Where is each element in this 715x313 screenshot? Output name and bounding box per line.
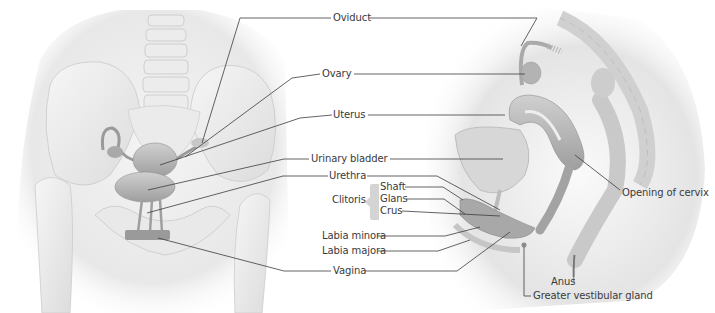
frontal-view (18, 10, 291, 313)
label-clitoris-glans: Glans (380, 193, 408, 205)
label-urethra: Urethra (329, 170, 366, 182)
label-oviduct: Oviduct (333, 12, 371, 24)
label-labia-majora: Labia majora (322, 245, 386, 257)
label-clitoris: Clitoris (332, 194, 366, 206)
clitoris-bracket (370, 184, 379, 220)
reproductive-anatomy-diagram: Oviduct Ovary Uterus Urinary bladder Ure… (0, 0, 715, 313)
label-clitoris-crus: Crus (380, 205, 402, 217)
sagittal-view (427, 7, 705, 313)
label-labia-minora: Labia minora (322, 230, 386, 242)
label-uterus: Uterus (333, 109, 365, 121)
label-ovary: Ovary (322, 68, 351, 80)
label-greater-vestibular-gland: Greater vestibular gland (533, 290, 653, 302)
label-clitoris-shaft: Shaft (380, 181, 406, 193)
label-urinary-bladder: Urinary bladder (311, 153, 388, 165)
spine (143, 15, 189, 110)
label-opening-of-cervix: Opening of cervix (622, 187, 709, 199)
label-vagina: Vagina (333, 265, 366, 277)
label-anus: Anus (551, 276, 575, 288)
